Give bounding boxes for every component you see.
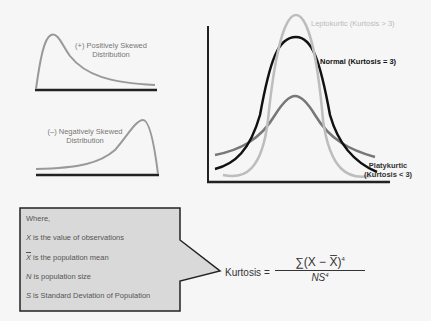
platykurtic-label-line2: (Kurtosis < 3): [356, 170, 420, 179]
positive-skew-label: (+) Positively Skewed Distribution: [66, 41, 156, 59]
kurtosis-chart: [207, 15, 390, 183]
legend-item-x: X is the value of observations: [26, 233, 124, 242]
negative-skew-label-line1: (–) Negatively Skewed: [40, 127, 130, 136]
formula-lhs: Kurtosis =: [225, 267, 270, 278]
negative-skew-label-line2: Distribution: [40, 136, 130, 145]
legend-text-s: is Standard Deviation of Population: [31, 291, 150, 300]
formula-numerator: ∑(X − X̅)4: [275, 255, 365, 269]
formula-fraction: ∑(X − X̅)4 NS4: [275, 255, 365, 283]
numerator-exponent: 4: [341, 256, 344, 262]
numerator-text: ∑(X − X̅): [295, 255, 341, 269]
denominator-text: NS: [311, 272, 325, 283]
denominator-exponent: 4: [325, 272, 328, 278]
legend-text-n: is population size: [31, 272, 91, 281]
legend-text-xbar: is the population mean: [31, 253, 109, 262]
normal-label: Normal (Kurtosis = 3): [320, 57, 396, 66]
leptokurtic-label: Leptokurtic (Kurtosis > 3): [311, 19, 395, 28]
formula-denominator: NS4: [275, 272, 365, 283]
fraction-bar: [275, 270, 365, 271]
legend-title: Where,: [26, 214, 50, 223]
positive-skew-label-line2: Distribution: [66, 50, 156, 59]
positive-skew-label-line1: (+) Positively Skewed: [66, 41, 156, 50]
legend-item-s: S is Standard Deviation of Population: [26, 291, 150, 300]
legend-text-x: is the value of observations: [31, 233, 124, 242]
legend-item-n: N is population size: [26, 272, 91, 281]
negative-skew-label: (–) Negatively Skewed Distribution: [40, 127, 130, 145]
platykurtic-label-line1: Platykurtic: [356, 161, 420, 170]
legend-item-xbar: X is the population mean: [26, 253, 109, 262]
platykurtic-label: Platykurtic (Kurtosis < 3): [356, 161, 420, 179]
